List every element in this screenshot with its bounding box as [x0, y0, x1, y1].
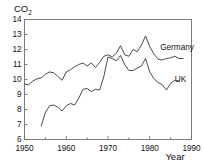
- x-tick-label: 1960: [57, 144, 76, 153]
- y-tick-label: 11: [13, 60, 22, 69]
- series-label-germany: Germany: [160, 43, 195, 52]
- x-tick-label: 1990: [182, 144, 201, 153]
- y-axis-title: CO2: [14, 3, 32, 16]
- y-tick-label: 12: [12, 45, 22, 54]
- x-tick-label: 1950: [15, 144, 34, 153]
- co2-emissions-chart: CO2 67891011121314 19501960197019801990 …: [0, 0, 204, 165]
- x-tick-label: 1970: [99, 144, 118, 153]
- x-axis-ticks: [25, 136, 192, 140]
- chart-title-group: CO2: [14, 3, 32, 16]
- y-tick-label: 9: [17, 90, 22, 99]
- series-line-uk: [41, 56, 179, 127]
- y-axis-tick-labels: 67891011121314: [12, 15, 22, 144]
- y-tick-label: 8: [17, 105, 22, 114]
- chart-canvas: CO2 67891011121314 19501960197019801990 …: [0, 0, 204, 165]
- y-tick-label: 14: [12, 15, 22, 24]
- series-inline-labels: GermanyUK: [160, 43, 195, 84]
- x-axis-title: Year: [165, 151, 184, 162]
- series-label-uk: UK: [175, 75, 187, 84]
- y-axis-title-subscript: 2: [28, 9, 32, 16]
- y-tick-label: 7: [17, 120, 22, 129]
- x-tick-label: 1980: [141, 144, 160, 153]
- y-tick-label: 10: [12, 75, 22, 84]
- y-tick-label: 13: [12, 30, 22, 39]
- plot-frame: [25, 20, 192, 140]
- y-axis-title-main: CO: [14, 3, 28, 14]
